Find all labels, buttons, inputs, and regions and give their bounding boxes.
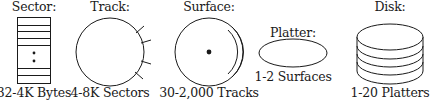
platter-icon	[259, 39, 327, 67]
sector-icon	[18, 18, 51, 84]
track-caption: 4-8K Sectors	[71, 85, 150, 100]
sector-caption: 32-4K Bytes	[0, 85, 71, 100]
platter-caption: 1-2 Surfaces	[254, 69, 331, 84]
surface-caption: 30-2,000 Tracks	[159, 85, 259, 100]
disk-caption: 1-20 Platters	[350, 85, 429, 100]
sector-title: Sector:	[12, 0, 56, 14]
disk-title: Disk:	[374, 0, 405, 14]
platter-title: Platter:	[270, 25, 316, 40]
surface-icon	[175, 18, 243, 86]
track-icon	[76, 18, 151, 86]
surface-title: Surface:	[183, 0, 235, 14]
track-title: Track:	[90, 0, 129, 14]
disk-icon	[357, 24, 423, 84]
